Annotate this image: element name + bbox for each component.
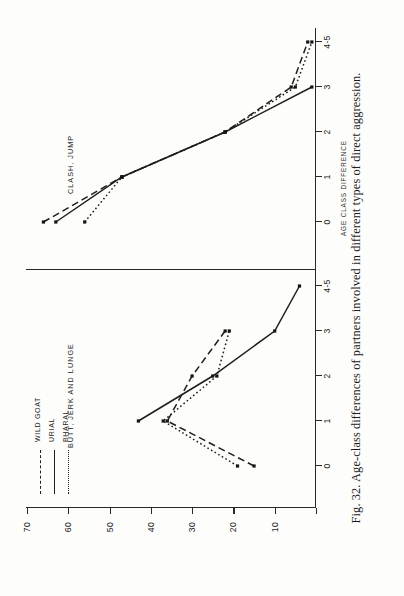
plot-lines: [10, 6, 362, 566]
figure-stage: 10 20 30 40 50 60 70 0 1 2 3 4-5 0 1 2 3…: [26, 18, 378, 578]
figure-page: 10 20 30 40 50 60 70 0 1 2 3 4-5 0 1 2 3…: [0, 0, 404, 596]
